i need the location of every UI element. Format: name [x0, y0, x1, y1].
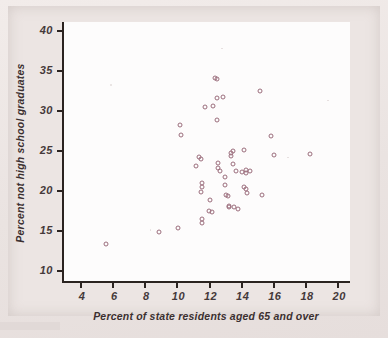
- scatter-point: [259, 193, 264, 198]
- x-axis-title: Percent of state residents aged 65 and o…: [62, 310, 350, 322]
- x-axis-tick-label: 14: [236, 290, 249, 302]
- scatter-point: [221, 95, 226, 100]
- y-axis-tick: 25: [57, 150, 64, 152]
- scatter-point: [230, 162, 235, 167]
- x-axis-tick-label: 10: [172, 290, 185, 302]
- y-axis-tick-label: 10: [40, 264, 53, 276]
- scan-speck: [150, 229, 152, 231]
- scatter-point: [217, 169, 222, 174]
- scatter-point: [209, 210, 214, 215]
- scatter-point: [200, 221, 205, 226]
- scatter-point: [214, 76, 219, 81]
- scatter-point: [211, 103, 216, 108]
- y-axis-tick-label: 40: [40, 24, 53, 36]
- x-axis-tick: 8: [144, 281, 146, 288]
- y-axis-tick-label: 30: [40, 104, 53, 116]
- x-axis-tick-label: 12: [204, 290, 217, 302]
- x-axis-tick: 14: [241, 281, 243, 288]
- scatter-point: [103, 242, 108, 247]
- scatter-point: [156, 230, 161, 235]
- y-axis-title-label: Percent not high school graduates: [14, 63, 26, 242]
- y-axis-tick: 15: [57, 230, 64, 232]
- scan-speck: [327, 100, 329, 102]
- scatter-point: [177, 123, 182, 128]
- scatter-point: [233, 168, 238, 173]
- scatter-point: [198, 156, 203, 161]
- x-axis-tick: 6: [112, 281, 114, 288]
- scatter-point: [258, 88, 263, 93]
- scatter-point: [179, 132, 184, 137]
- y-axis-tick-label: 25: [40, 144, 53, 156]
- x-axis-tick: 18: [305, 281, 307, 288]
- scatter-point: [307, 151, 312, 156]
- y-axis-tick: 20: [57, 190, 64, 192]
- x-axis-tick: 4: [80, 281, 82, 288]
- x-axis-tick: 16: [273, 281, 275, 288]
- scatter-point: [229, 154, 234, 159]
- y-axis-tick: 35: [57, 70, 64, 72]
- plot-frame: 10152025303540468101214161820: [62, 22, 350, 283]
- x-axis-tick-label: 18: [300, 290, 313, 302]
- scatter-point: [208, 198, 213, 203]
- y-axis-tick-label: 15: [40, 224, 53, 236]
- scatter-point: [225, 194, 230, 199]
- x-axis-tick-label: 4: [79, 290, 86, 302]
- x-axis-tick-label: 16: [268, 290, 281, 302]
- scan-speck: [221, 48, 223, 50]
- x-axis-tick: 12: [209, 281, 211, 288]
- scatter-point: [222, 183, 227, 188]
- scan-edge-artifact: [0, 322, 60, 330]
- scatter-point: [222, 175, 227, 180]
- scatter-point: [216, 160, 221, 165]
- scatter-point: [272, 152, 277, 157]
- plot-area: [64, 22, 350, 281]
- scatter-point: [269, 133, 274, 138]
- scan-speck: [110, 84, 112, 86]
- x-axis-tick-label: 6: [111, 290, 118, 302]
- y-axis-title: Percent not high school graduates: [12, 22, 28, 283]
- scatter-point: [241, 147, 246, 152]
- x-axis-tick: 20: [337, 281, 339, 288]
- scatter-point: [203, 104, 208, 109]
- scatter-point: [248, 168, 253, 173]
- scatter-point: [214, 95, 219, 100]
- scatter-point: [214, 117, 219, 122]
- scan-speck: [287, 157, 289, 159]
- x-axis-tick-label: 20: [333, 290, 346, 302]
- y-axis-tick-label: 20: [40, 184, 53, 196]
- scatter-point: [200, 185, 205, 190]
- y-axis-tick: 10: [57, 270, 64, 272]
- y-axis-tick: 30: [57, 110, 64, 112]
- x-axis-tick: 10: [176, 281, 178, 288]
- figure-container: Percent not high school graduates 101520…: [0, 0, 388, 338]
- scatter-point: [176, 226, 181, 231]
- scatter-point: [245, 191, 250, 196]
- scatter-point: [235, 207, 240, 212]
- scatter-point: [230, 148, 235, 153]
- y-axis-tick-label: 35: [40, 64, 53, 76]
- scatter-point: [198, 190, 203, 195]
- y-axis-tick: 40: [57, 30, 64, 32]
- x-axis-tick-label: 8: [143, 290, 150, 302]
- scatter-point: [193, 163, 198, 168]
